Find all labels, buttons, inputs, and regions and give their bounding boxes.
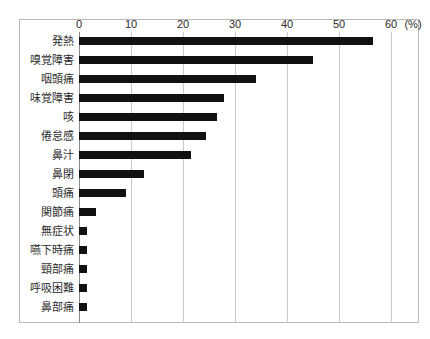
bar-row: 鼻部痛 — [79, 298, 391, 317]
x-tick-label-40: 40 — [281, 18, 293, 30]
category-label: 頭痛 — [52, 184, 74, 203]
bar-row: 呼吸困難 — [79, 279, 391, 298]
category-label: 咽頭痛 — [41, 70, 74, 89]
x-tick-label-10: 10 — [125, 18, 137, 30]
bar — [79, 265, 87, 273]
category-label: 嗅覚障害 — [30, 51, 74, 70]
gridline-60 — [391, 32, 392, 323]
bar — [79, 303, 87, 311]
x-tick-label-60: 60 — [385, 18, 397, 30]
bar-row: 発熱 — [79, 32, 391, 51]
bar-row: 鼻汁 — [79, 146, 391, 165]
x-tick-label-20: 20 — [177, 18, 189, 30]
bar — [79, 132, 206, 140]
x-tick-label-30: 30 — [229, 18, 241, 30]
bar — [79, 37, 373, 45]
category-label: 無症状 — [41, 222, 74, 241]
category-label: 鼻閉 — [52, 165, 74, 184]
bar-row: 無症状 — [79, 222, 391, 241]
bar-rows: 発熱嗅覚障害咽頭痛味覚障害咳倦怠感鼻汁鼻閉頭痛関節痛無症状嚥下時痛頸部痛呼吸困難… — [79, 32, 391, 323]
category-label: 咳 — [63, 108, 74, 127]
bar-row: 関節痛 — [79, 203, 391, 222]
bar — [79, 56, 313, 64]
bar — [79, 246, 87, 254]
bar-row: 頭痛 — [79, 184, 391, 203]
bar — [79, 208, 96, 216]
bar-row: 嚥下時痛 — [79, 241, 391, 260]
category-label: 倦怠感 — [41, 127, 74, 146]
bar — [79, 227, 87, 235]
category-label: 鼻部痛 — [41, 298, 74, 317]
x-tick-label-50: 50 — [333, 18, 345, 30]
bar — [79, 113, 217, 121]
x-axis-tick-labels: 0102030405060(%) — [0, 0, 430, 20]
category-label: 鼻汁 — [52, 146, 74, 165]
bar-row: 咽頭痛 — [79, 70, 391, 89]
bar-row: 味覚障害 — [79, 89, 391, 108]
x-tick-label-0: 0 — [76, 18, 82, 30]
category-label: 発熱 — [52, 32, 74, 51]
category-label: 呼吸困難 — [30, 279, 74, 298]
category-label: 嚥下時痛 — [30, 241, 74, 260]
category-label: 関節痛 — [41, 203, 74, 222]
x-axis-unit-label: (%) — [404, 18, 421, 30]
bar — [79, 75, 256, 83]
category-label: 頸部痛 — [41, 260, 74, 279]
bar — [79, 189, 126, 197]
bar-row: 頸部痛 — [79, 260, 391, 279]
plot-area: 発熱嗅覚障害咽頭痛味覚障害咳倦怠感鼻汁鼻閉頭痛関節痛無症状嚥下時痛頸部痛呼吸困難… — [79, 32, 391, 323]
bar — [79, 284, 87, 292]
bar-row: 鼻閉 — [79, 165, 391, 184]
bar-row: 嗅覚障害 — [79, 51, 391, 70]
bar — [79, 94, 224, 102]
bar — [79, 151, 191, 159]
category-label: 味覚障害 — [30, 89, 74, 108]
bar-row: 咳 — [79, 108, 391, 127]
bar-row: 倦怠感 — [79, 127, 391, 146]
bar-chart: 0102030405060(%) 発熱嗅覚障害咽頭痛味覚障害咳倦怠感鼻汁鼻閉頭痛… — [0, 0, 430, 339]
bar — [79, 170, 144, 178]
